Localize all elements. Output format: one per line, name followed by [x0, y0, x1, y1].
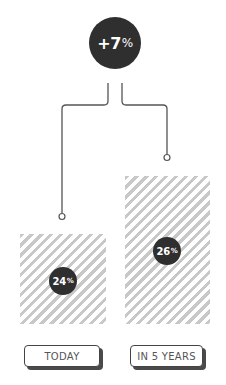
label-in-5-years-text: IN 5 YEARS — [137, 351, 196, 362]
label-today-text: TODAY — [44, 351, 79, 362]
unit-today: % — [67, 277, 74, 285]
value-in-5-years: 26 — [156, 246, 169, 257]
value-badge-in-5-years: 26% — [153, 237, 181, 265]
value-badge-today: 24% — [49, 267, 77, 295]
change-unit: % — [122, 36, 133, 50]
change-value: +7 — [97, 34, 121, 53]
value-today: 24 — [52, 276, 65, 287]
label-in-5-years: IN 5 YEARS — [130, 345, 203, 367]
change-badge: +7% — [89, 17, 141, 69]
unit-in-5-years: % — [171, 247, 178, 255]
label-today: TODAY — [24, 345, 100, 367]
